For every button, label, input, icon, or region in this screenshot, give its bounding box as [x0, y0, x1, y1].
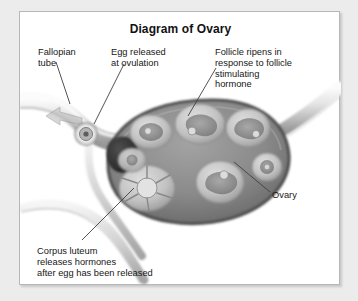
egg-in-tube	[75, 123, 97, 145]
leader-egg	[94, 64, 124, 124]
follicle-regressing	[118, 148, 146, 172]
label-egg-released: Egg released at ovulation	[111, 47, 166, 69]
label-ovary: Ovary	[272, 190, 297, 201]
label-fallopian-tube: Fallopian tube	[38, 47, 76, 69]
follicle-ruptured	[196, 161, 244, 203]
diagram-figure: Diagram of Ovary	[0, 0, 358, 301]
label-corpus-luteum: Corpus luteum releases hormones after eg…	[37, 246, 153, 278]
follicle-secondary	[175, 104, 225, 144]
follicle-primary	[130, 115, 172, 149]
suspensory-ligament	[282, 88, 341, 136]
corpus-luteum	[119, 165, 175, 211]
follicle-mature-small	[252, 153, 282, 181]
label-follicle-ripens: Follicle ripens in response to follicle …	[215, 47, 292, 90]
follicle-graafian	[226, 109, 270, 147]
diagram-frame: Diagram of Ovary	[19, 11, 340, 285]
